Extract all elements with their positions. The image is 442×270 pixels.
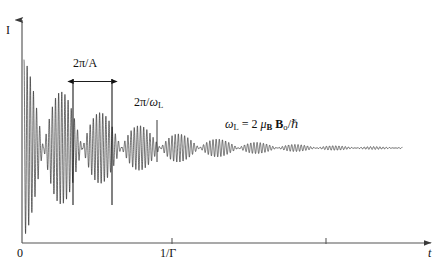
equation-hbar: ℏ: [291, 117, 299, 131]
equation-equals: =: [242, 117, 249, 131]
larmor-frequency-equation: ωL = 2 μB Bo/ℏ: [225, 118, 299, 130]
equation-mu-symbol: μ: [261, 117, 267, 131]
beat-period-label-text: 2π/A: [73, 56, 97, 70]
equation-mu-subscript: B: [267, 122, 273, 132]
signal-trace: [24, 60, 402, 234]
y-axis-label: I: [6, 24, 10, 36]
larmor-period-label: 2π/ωL: [134, 96, 163, 108]
beat-period-label: 2π/A: [73, 57, 97, 69]
larmor-period-subscript: L: [158, 100, 163, 110]
x-axis-label: t: [428, 247, 431, 259]
larmor-period-symbol: ω: [149, 95, 157, 109]
quantum-beat-figure: I t 0 1/Γ 2π/A 2π/ωL ωL = 2 μB Bo/ℏ: [0, 0, 442, 270]
equation-field-subscript: o: [283, 122, 287, 132]
equation-factor: 2: [252, 117, 258, 131]
plot-area: [0, 0, 442, 270]
larmor-period-prefix: 2π/: [134, 95, 149, 109]
tick-label-inverse-gamma: 1/Γ: [160, 247, 176, 259]
tick-label-origin: 0: [17, 247, 23, 259]
equation-lhs-subscript: L: [233, 122, 238, 132]
